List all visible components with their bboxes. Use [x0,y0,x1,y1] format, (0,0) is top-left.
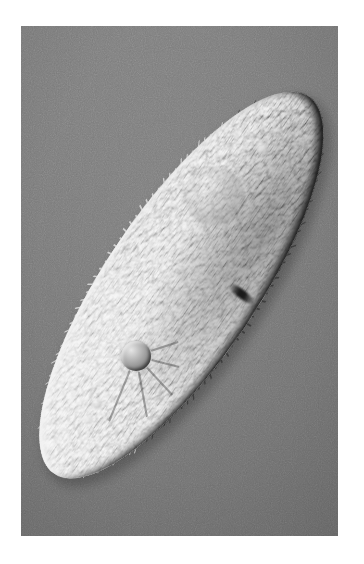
paramecium-cell [21,26,338,536]
food-vacuole-lower [92,399,102,409]
granule-cluster-posterior [84,416,92,424]
micrograph-page [0,0,364,564]
contractile-vacuole-canals [21,26,338,536]
micrograph-field [21,26,338,536]
contractile-vacuole [121,341,151,371]
food-vacuole-upper [256,142,268,154]
macronucleus-region [184,166,244,226]
